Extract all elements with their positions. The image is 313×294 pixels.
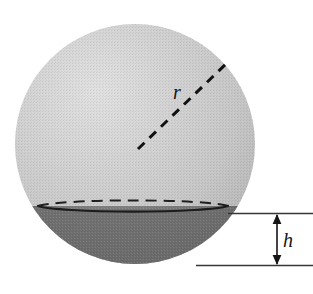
height-arrow-head-up [273, 214, 282, 224]
diagram-canvas: r h [0, 0, 313, 294]
sphere-cap-figure: r h [0, 0, 313, 294]
height-label: h [283, 229, 293, 251]
height-arrow [273, 214, 282, 265]
height-arrow-head-down [273, 255, 282, 265]
radius-label: r [173, 81, 181, 103]
